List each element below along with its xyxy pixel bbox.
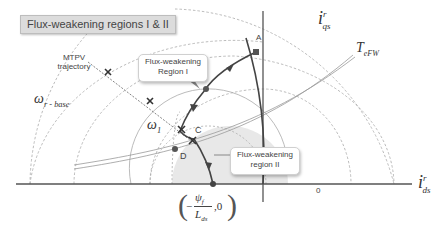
callout-region-i-line1: Flux-weakening bbox=[139, 57, 207, 67]
point-d-label: D bbox=[180, 152, 187, 161]
mtpv-x-marker-2 bbox=[147, 98, 153, 104]
trajectory-arrow-1 bbox=[226, 64, 234, 72]
ids-superscript: r bbox=[423, 173, 427, 183]
iqs-axis-label: irqs bbox=[318, 8, 331, 31]
coord-l-sub: ds bbox=[201, 215, 207, 223]
callout-region-i-line2: Region I bbox=[139, 67, 207, 77]
coord-minus: − bbox=[186, 200, 192, 212]
omega1-subscript: 1 bbox=[157, 126, 161, 135]
mtpv-label-line2: trajectory bbox=[50, 62, 98, 71]
coord-numerator: ψf bbox=[195, 191, 204, 206]
callout-region-ii-line2: region II bbox=[231, 160, 299, 170]
diagram-title: Flux-weakening regions I & II bbox=[20, 15, 176, 34]
origin-label: 0 bbox=[316, 186, 320, 195]
omega-base-label: ωr - base bbox=[34, 91, 69, 109]
coord-denominator: Lds bbox=[195, 208, 207, 223]
torque-subscript: eFW bbox=[364, 49, 379, 58]
ids-axis-label: irds bbox=[418, 172, 431, 195]
callout-region-ii: Flux-weakening region II bbox=[230, 147, 300, 175]
point-a-marker bbox=[253, 49, 259, 55]
iqs-superscript: r bbox=[323, 9, 327, 19]
mtpv-label: MTPV trajectory bbox=[50, 53, 98, 71]
callout-region-i: Flux-weakening Region I bbox=[138, 54, 208, 82]
char-point-marker bbox=[210, 181, 216, 187]
mtpv-x-marker-1 bbox=[105, 69, 111, 75]
torque-label: TeFW bbox=[356, 40, 379, 58]
coord-psi: ψ bbox=[195, 191, 202, 203]
point-d-marker bbox=[172, 146, 178, 152]
coord-zero: ,0 bbox=[214, 200, 222, 212]
omega-base-subscript: r - base bbox=[44, 100, 70, 109]
mtpv-label-line1: MTPV bbox=[50, 53, 98, 62]
iqs-subscript: qs bbox=[323, 21, 331, 31]
omega1-symbol: ω bbox=[147, 117, 157, 132]
coord-fraction-bar bbox=[194, 206, 212, 207]
callout-region-ii-line1: Flux-weakening bbox=[231, 150, 299, 160]
omega-base-symbol: ω bbox=[34, 91, 44, 106]
char-point-coordinate: ( − ψf Lds ,0 ) bbox=[178, 190, 248, 224]
coord-psi-sub: f bbox=[202, 198, 204, 206]
ids-subscript: ds bbox=[423, 185, 431, 195]
omega1-label: ω1 bbox=[147, 117, 161, 135]
torque-symbol: T bbox=[356, 40, 364, 55]
coord-right-paren: ) bbox=[227, 190, 237, 220]
region-i-point bbox=[203, 86, 209, 92]
point-a-label: A bbox=[256, 33, 261, 42]
point-c-label: C bbox=[195, 126, 202, 135]
